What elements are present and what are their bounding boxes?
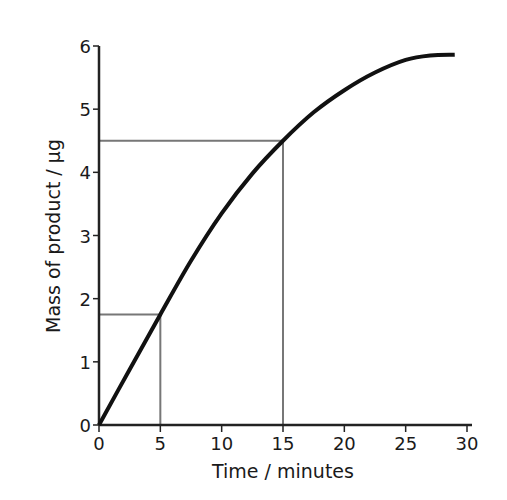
y-tick-label: 5 xyxy=(80,99,91,120)
axes xyxy=(99,46,472,425)
x-tick-label: 20 xyxy=(333,433,356,454)
y-tick-label: 4 xyxy=(80,162,91,183)
x-tick-label: 25 xyxy=(394,433,417,454)
y-axis-label: Mass of product / µg xyxy=(42,139,64,333)
data-curve xyxy=(99,55,455,425)
x-tick-label: 15 xyxy=(272,433,295,454)
x-tick-label: 5 xyxy=(155,433,166,454)
chart: 0123456051015202530 Time / minutes Mass … xyxy=(0,0,507,500)
y-tick-label: 0 xyxy=(80,415,91,436)
y-tick-label: 6 xyxy=(80,36,91,57)
reference-lines xyxy=(99,141,283,425)
y-tick-label: 3 xyxy=(80,226,91,247)
x-axis-label: Time / minutes xyxy=(211,460,354,482)
x-tick-label: 10 xyxy=(210,433,233,454)
reference-line xyxy=(99,141,283,425)
axis-ticks: 0123456051015202530 xyxy=(80,36,479,454)
y-tick-label: 2 xyxy=(80,289,91,310)
x-tick-label: 30 xyxy=(456,433,479,454)
y-tick-label: 1 xyxy=(80,352,91,373)
x-tick-label: 0 xyxy=(93,433,104,454)
